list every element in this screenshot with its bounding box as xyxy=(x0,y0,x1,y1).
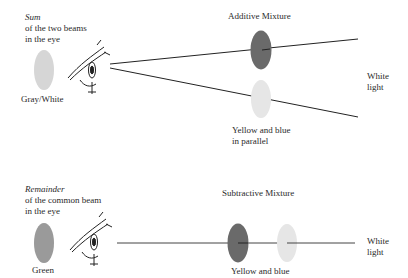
subtractive-source-line1: White xyxy=(367,236,389,247)
additive-filter-blue xyxy=(251,31,272,70)
subtractive-result-heading: Remainder xyxy=(25,184,65,195)
additive-title: Additive Mixture xyxy=(228,11,291,22)
diagram-canvas xyxy=(0,0,408,278)
additive-result-heading: Sum xyxy=(25,12,41,23)
subtractive-filters-line1: Yellow and blue xyxy=(231,266,290,277)
additive-beam-top xyxy=(110,39,358,64)
subtractive-title: Subtractive Mixture xyxy=(222,188,294,199)
additive-result-color-label: Gray/White xyxy=(21,94,63,105)
subtractive-result-swatch xyxy=(34,223,54,263)
additive-result-line2: in the eye xyxy=(25,34,60,45)
additive-filters-line1: Yellow and blue xyxy=(232,125,291,136)
additive-source-line1: White xyxy=(367,71,389,82)
subtractive-result-color-label: Green xyxy=(32,265,54,276)
additive-filter-yellow xyxy=(251,80,271,118)
eye-icon xyxy=(70,212,112,266)
eye-icon xyxy=(68,40,110,94)
additive-result-line1: of the two beams xyxy=(25,23,87,34)
additive-source-line2: light xyxy=(367,82,384,93)
subtractive-result-line2: in the eye xyxy=(25,206,60,217)
subtractive-result-line1: of the common beam xyxy=(25,195,101,206)
additive-beam-bottom xyxy=(110,68,358,117)
subtractive-source-line2: light xyxy=(367,247,384,258)
additive-result-swatch xyxy=(34,50,54,90)
additive-filters-line2: in parallel xyxy=(232,136,268,147)
